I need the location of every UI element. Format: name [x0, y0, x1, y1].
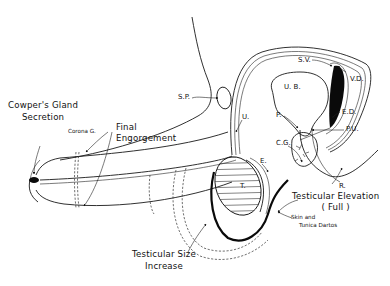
urinary-bladder-label: U. B.	[284, 84, 301, 91]
perineum-outline	[300, 130, 378, 177]
vas-deferens-label: V.D.	[350, 76, 364, 83]
testis-label: T.	[240, 183, 246, 190]
corona-glans	[75, 152, 77, 208]
skin-tunica-dartos-label: Skin and Tunica Dartos	[291, 213, 337, 230]
prostate-label: P.	[276, 112, 281, 119]
cowpers-gland-abbrev-label: C.G.	[276, 140, 291, 147]
cowpers-secretion-drop	[29, 177, 39, 183]
corona-glans-label: Corona G.	[68, 129, 96, 135]
final-engorgement-label: Final Engorgement	[116, 123, 176, 142]
seminal-vesicle	[329, 66, 344, 128]
ejaculatory-duct-label: E.D.	[342, 109, 356, 116]
urinary-bladder	[271, 72, 328, 136]
seminal-vesicle-label: S.V.	[298, 57, 311, 64]
symphysis-pubis-label: S.P.	[178, 94, 190, 101]
scrotum-elevated	[211, 172, 288, 241]
testicular-size-label: Testicular Size Increase	[132, 250, 196, 270]
rectum-label: R.	[339, 183, 346, 190]
prostatic-urethra-label: P.U.	[346, 126, 359, 133]
testicular-elevation-label: Testicular Elevation ( Full )	[292, 192, 379, 211]
prostate	[292, 133, 318, 167]
urethra-label: U.	[242, 114, 249, 121]
epididymis-label: E.	[260, 158, 267, 165]
cowpers-gland-label: Cowper's Gland Secretion	[8, 101, 78, 121]
penis-lower	[36, 182, 232, 206]
anatomy-diagram	[0, 0, 390, 286]
urethra	[40, 156, 232, 180]
